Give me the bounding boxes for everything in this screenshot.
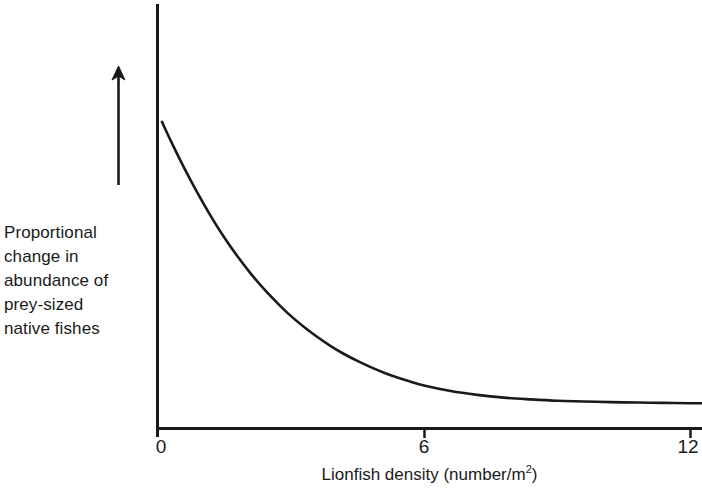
x-axis-label-text: Lionfish density (number/m	[322, 465, 526, 484]
y-axis-label: Proportional change in abundance of prey…	[4, 221, 144, 341]
x-tick-label-12: 12	[668, 436, 702, 458]
x-tick-label-0: 0	[141, 436, 181, 458]
decay-curve	[162, 122, 702, 403]
figure-panel: Proportional change in abundance of prey…	[0, 0, 702, 493]
x-tick-label-6: 6	[404, 436, 444, 458]
x-axis-label-suffix: )	[532, 465, 538, 484]
increase-direction-arrow	[112, 66, 125, 185]
x-axis-label: Lionfish density (number/m2)	[157, 464, 702, 486]
